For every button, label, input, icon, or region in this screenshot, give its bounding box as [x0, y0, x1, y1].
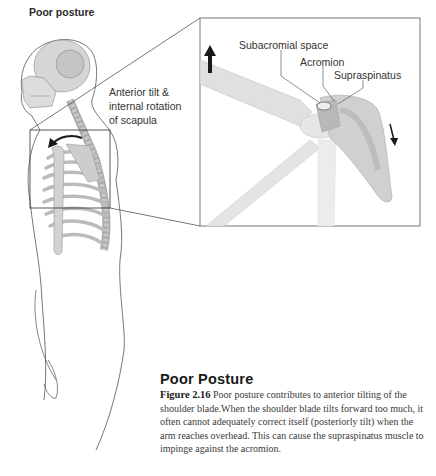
label-line: of scapula: [109, 113, 199, 127]
label-line: Anterior tilt &: [109, 85, 199, 99]
humerus-shaft: [318, 140, 336, 226]
rib-cage: [44, 152, 106, 242]
skull: [22, 40, 90, 108]
figure-number: Figure 2.16: [160, 389, 211, 400]
label-subacromial-space: Subacromial space: [239, 38, 328, 52]
label-acromion: Acromion: [300, 55, 344, 69]
callout-line-bottom: [110, 208, 200, 226]
caption-title: Poor Posture: [160, 371, 430, 388]
label-supraspinatus: Supraspinatus: [334, 68, 401, 82]
caption-body: Figure 2.16 Poor posture contributes to …: [160, 388, 430, 456]
label-line: internal rotation: [109, 99, 199, 113]
figure-caption: Poor Posture Figure 2.16 Poor posture co…: [160, 371, 430, 456]
label-anterior-tilt: Anterior tilt & internal rotation of sca…: [109, 85, 199, 127]
subacromial-marker: [317, 102, 331, 110]
humerus: [52, 146, 64, 255]
